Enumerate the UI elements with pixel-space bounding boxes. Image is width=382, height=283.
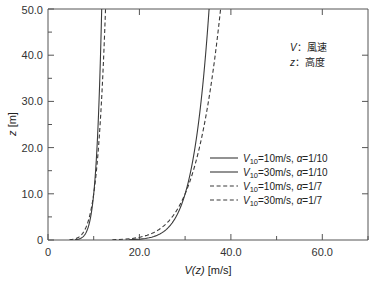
y-ticklabel-0: 0 <box>37 234 43 246</box>
y-ticklabel-20: 20.0 <box>22 142 43 154</box>
curve-v10-30-alpha-1-10 <box>129 0 211 240</box>
legend: V10=10m/s, α=1/10 V10=30m/s, α=1/10 V10=… <box>210 153 328 208</box>
y-axis-title-unit: [m] <box>6 112 18 127</box>
legend-item-3[interactable]: V10=30m/s, α=1/7 <box>210 195 323 208</box>
annotation-line-1: V：風速 <box>290 42 327 53</box>
wind-profile-chart: 0 10.0 20.0 30.0 40.0 50.0 0 20.0 40.0 <box>0 0 382 283</box>
x-ticklabel-20: 20.0 <box>129 246 150 258</box>
x-ticklabel-60: 60.0 <box>312 246 333 258</box>
legend-item-2[interactable]: V10=10m/s, α=1/7 <box>210 181 323 194</box>
legend-label-0: V10=10m/s, α=1/10 <box>243 153 328 166</box>
y-axis-title: z [m] <box>6 112 18 137</box>
annotation-block: V：風速 z：高度 <box>289 42 327 68</box>
x-ticklabel-0: 0 <box>45 246 51 258</box>
legend-label-1: V10=30m/s, α=1/10 <box>243 167 328 180</box>
x-axis-title-unit: [m/s] <box>208 264 232 276</box>
y-axis-ticklabels: 0 10.0 20.0 30.0 40.0 50.0 <box>22 4 43 247</box>
y-ticklabel-40: 40.0 <box>22 49 43 61</box>
legend-label-2: V10=10m/s, α=1/7 <box>243 181 323 194</box>
svg-text:V(z) [m/s]: V(z) [m/s] <box>184 264 231 276</box>
chart-svg: 0 10.0 20.0 30.0 40.0 50.0 0 20.0 40.0 <box>0 0 382 283</box>
x-axis-title-var: V(z) <box>184 264 205 276</box>
x-ticklabel-40: 40.0 <box>220 246 241 258</box>
legend-item-1[interactable]: V10=30m/s, α=1/10 <box>210 167 328 180</box>
curves-group <box>69 0 223 240</box>
svg-text:z [m]: z [m] <box>6 112 18 137</box>
x-axis-title: V(z) [m/s] <box>184 264 231 276</box>
annotation-line-2: z：高度 <box>289 56 325 68</box>
y-ticklabel-30: 30.0 <box>22 95 43 107</box>
legend-label-3: V10=30m/s, α=1/7 <box>243 195 323 208</box>
curve-v10-10-alpha-1-10 <box>75 0 102 240</box>
y-ticklabel-10: 10.0 <box>22 188 43 200</box>
x-axis-ticklabels: 0 20.0 40.0 60.0 <box>45 246 333 258</box>
y-ticklabel-50: 50.0 <box>22 4 43 16</box>
legend-item-0[interactable]: V10=10m/s, α=1/10 <box>210 153 328 166</box>
